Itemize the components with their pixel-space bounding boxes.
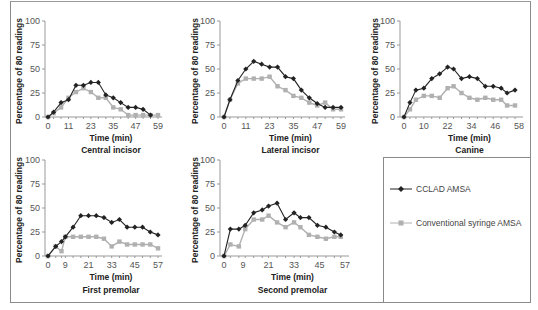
square-marker — [275, 220, 279, 224]
y-tick-label: 50 — [205, 64, 215, 74]
y-axis-title: Percentage of 80 readings — [190, 157, 200, 263]
square-marker — [140, 242, 144, 246]
square-marker — [94, 235, 98, 239]
x-tick-label: 47 — [312, 121, 322, 131]
square-marker — [499, 98, 503, 102]
x-tick-label: 0 — [45, 121, 50, 131]
diamond-marker — [155, 232, 160, 237]
diamond-marker — [323, 105, 328, 110]
square-marker — [332, 235, 336, 239]
square-marker — [59, 105, 63, 109]
y-tick-label: 50 — [205, 203, 215, 213]
x-axis-title: Time (min) — [448, 133, 491, 143]
diamond-marker — [101, 215, 106, 220]
x-axis-title: Time (min) — [90, 133, 133, 143]
diamond-marker — [260, 207, 265, 212]
y-tick-label: 25 — [30, 227, 40, 237]
x-tick-label: 21 — [84, 260, 94, 270]
square-marker — [252, 217, 256, 221]
square-marker — [475, 98, 479, 102]
y-tick-label: 50 — [30, 64, 40, 74]
square-marker — [237, 244, 241, 248]
diamond-marker — [94, 213, 99, 218]
x-tick-label: 59 — [153, 121, 163, 131]
diamond-marker — [323, 225, 328, 230]
x-tick-label: 0 — [221, 260, 226, 270]
diamond-marker — [407, 100, 412, 105]
y-tick-label: 75 — [30, 40, 40, 50]
x-tick-label: 46 — [490, 121, 500, 131]
y-tick-label: 100 — [25, 155, 40, 165]
x-tick-label: 35 — [288, 121, 298, 131]
x-tick-label: 10 — [419, 121, 429, 131]
diamond-marker — [259, 62, 264, 67]
x-tick-label: 33 — [289, 260, 299, 270]
diamond-marker — [96, 80, 101, 85]
y-tick-label: 0 — [210, 251, 215, 261]
conventional-line — [224, 216, 341, 256]
square-marker — [86, 235, 90, 239]
chart-canine: 025507510001022344658Time (min)CaninePer… — [370, 16, 524, 155]
diamond-marker — [132, 225, 137, 230]
y-tick-label: 25 — [205, 88, 215, 98]
square-marker — [117, 239, 121, 243]
square-marker — [513, 103, 517, 107]
y-tick-label: 50 — [385, 64, 395, 74]
panel-title: First premolar — [82, 285, 140, 295]
square-marker — [307, 100, 311, 104]
square-marker — [71, 235, 75, 239]
square-marker — [299, 96, 303, 100]
diamond-marker — [413, 88, 418, 93]
square-marker — [324, 237, 328, 241]
square-marker — [467, 96, 471, 100]
panel-title: Second premolar — [258, 285, 328, 295]
diamond-marker — [467, 74, 472, 79]
diamond-marker — [274, 201, 279, 206]
y-tick-label: 50 — [30, 203, 40, 213]
diamond-marker — [109, 220, 114, 225]
chart-first-premolar: 02550751000921334557Time (min)First prem… — [14, 155, 163, 295]
square-marker — [79, 235, 83, 239]
x-axis-title: Time (min) — [90, 272, 133, 282]
panel-title: Canine — [455, 145, 484, 155]
x-tick-label: 33 — [107, 260, 117, 270]
y-tick-label: 75 — [205, 179, 215, 189]
x-tick-label: 9 — [241, 260, 246, 270]
square-marker — [126, 113, 130, 117]
square-marker — [259, 76, 263, 80]
y-tick-label: 75 — [385, 40, 395, 50]
y-tick-label: 25 — [385, 88, 395, 98]
legend: CCLAD AMSA Conventional syringe AMSA — [383, 157, 531, 303]
square-marker — [148, 242, 152, 246]
diamond-marker — [512, 88, 517, 93]
square-marker — [133, 113, 137, 117]
square-marker — [252, 76, 256, 80]
square-marker — [125, 242, 129, 246]
x-tick-label: 59 — [336, 121, 346, 131]
x-tick-label: 23 — [86, 121, 96, 131]
square-marker — [141, 113, 145, 117]
chart-central-incisor: 025507510001123354759Time (min)Central i… — [14, 16, 163, 155]
y-tick-label: 0 — [210, 112, 215, 122]
square-marker — [119, 107, 123, 111]
square-marker — [156, 246, 160, 250]
square-marker — [266, 213, 270, 217]
legend-label-conventional: Conventional syringe AMSA — [416, 218, 521, 228]
x-tick-label: 47 — [131, 121, 141, 131]
square-marker — [111, 105, 115, 109]
x-tick-label: 21 — [264, 260, 274, 270]
x-tick-label: 35 — [108, 121, 118, 131]
chart-lateral-incisor: 025507510001123354759Time (min)Lateral i… — [190, 16, 346, 155]
y-tick-label: 0 — [35, 112, 40, 122]
square-marker — [283, 225, 287, 229]
square-marker — [244, 76, 248, 80]
square-marker — [315, 235, 319, 239]
diamond-marker — [133, 105, 138, 110]
panel-title: Lateral incisor — [261, 145, 320, 155]
square-marker — [307, 233, 311, 237]
y-axis-title: Percentage of 80 readings — [14, 18, 24, 124]
y-tick-label: 100 — [380, 16, 395, 26]
conventional-line — [48, 88, 158, 117]
square-marker — [292, 220, 296, 224]
diamond-marker — [140, 225, 145, 230]
